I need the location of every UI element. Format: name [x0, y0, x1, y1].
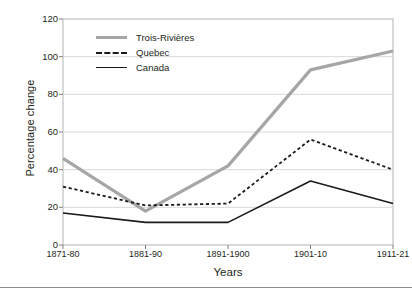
y-tick-label: 120: [28, 14, 58, 24]
chart-figure: Percentage change Years 020406080100120 …: [0, 0, 412, 292]
x-tick-label: 1881-90: [129, 249, 162, 259]
legend-line-swatch-icon: [96, 62, 127, 74]
legend-item[interactable]: Quebec: [96, 45, 236, 60]
x-axis-title: Years: [63, 266, 393, 278]
x-axis-tick-labels: 1871-801881-901891-19001901-101911-21: [0, 249, 412, 265]
y-tick-label: 80: [28, 89, 58, 99]
legend-item[interactable]: Trois-Rivières: [96, 30, 236, 45]
legend-label: Quebec: [136, 47, 169, 58]
y-tick-label: 100: [28, 52, 58, 62]
legend-label: Trois-Rivières: [136, 32, 194, 43]
x-tick-label: 1871-80: [46, 249, 79, 259]
footer-divider: [0, 287, 412, 288]
y-tick-label: 40: [28, 165, 58, 175]
chart-legend: Trois-RivièresQuebecCanada: [96, 30, 236, 75]
x-tick-label: 1901-10: [294, 249, 327, 259]
y-tick-label: 60: [28, 127, 58, 137]
x-tick-label: 1911-21: [377, 249, 409, 259]
y-axis-ticks: [59, 19, 63, 245]
legend-item[interactable]: Canada: [96, 60, 236, 75]
x-tick-label: 1891-1900: [206, 249, 249, 259]
legend-line-swatch-icon: [96, 47, 127, 59]
legend-label: Canada: [136, 62, 169, 73]
legend-line-swatch-icon: [96, 32, 127, 44]
y-tick-label: 20: [28, 202, 58, 212]
